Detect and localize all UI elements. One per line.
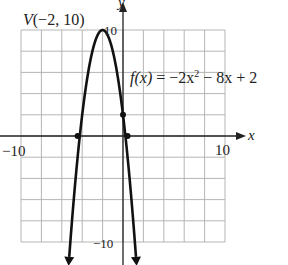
- function-name: f(x): [130, 69, 152, 87]
- curve-arrow-icon: [64, 256, 74, 265]
- marked-point: [120, 112, 126, 118]
- x-axis-arrow-icon: [236, 132, 246, 140]
- axes: [0, 2, 246, 265]
- y-min-tick-label: −10: [93, 236, 113, 251]
- marked-point: [125, 133, 131, 139]
- function-tail: − 8x + 2: [199, 69, 257, 86]
- function-rhs: = −2x: [152, 69, 194, 86]
- vertex-label: V(−2, 10): [23, 11, 84, 29]
- curve-arrow-icon: [131, 256, 141, 265]
- y-max-tick-label: 10: [104, 23, 117, 38]
- x-max-tick-label: 10: [215, 142, 230, 158]
- x-min-tick-label: −10: [2, 143, 25, 159]
- marked-point: [75, 133, 81, 139]
- function-label: f(x) = −2x2 − 8x + 2: [130, 68, 257, 87]
- x-axis-label: x: [247, 127, 255, 143]
- y-axis-label: y: [116, 0, 125, 10]
- parabola-graph: x y −10 10 10 −10 V(−2, 10) f(x) = −2x2 …: [0, 0, 288, 265]
